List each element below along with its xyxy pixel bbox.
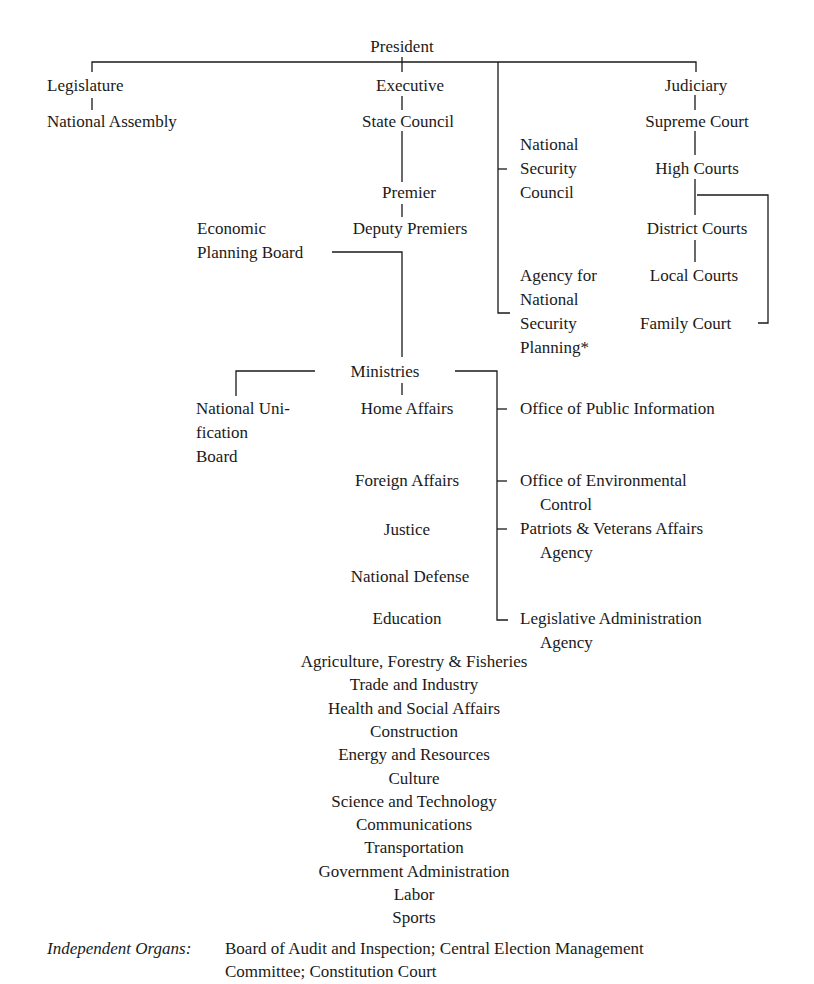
epb-label-line2: Planning Board	[197, 241, 303, 265]
ansp-line: Planning*	[520, 336, 589, 360]
epb-label-line1: Economic	[197, 217, 266, 241]
nsc-line: National	[520, 133, 579, 157]
office-item-line1: Office of Public Information	[520, 397, 715, 421]
top-branch-bar	[92, 62, 696, 72]
district-courts-label: District Courts	[647, 217, 748, 241]
office-item-line2: Control	[540, 493, 592, 517]
security-bracket	[498, 62, 510, 313]
executive-label: Executive	[376, 74, 444, 98]
ministry-item: Education	[373, 607, 442, 631]
deputy-premiers-label: Deputy Premiers	[353, 217, 468, 241]
independent-organs-line2: Committee; Constitution Court	[225, 960, 437, 984]
ministry-item: Sports	[392, 906, 435, 930]
family-court-label: Family Court	[640, 312, 731, 336]
office-item-line1: Office of Environmental	[520, 469, 687, 493]
ministry-item: Justice	[384, 518, 430, 542]
nub-line: Board	[196, 445, 238, 469]
judiciary-label: Judiciary	[665, 74, 727, 98]
ministry-item: Science and Technology	[331, 790, 497, 814]
local-courts-label: Local Courts	[650, 264, 738, 288]
independent-organs-line1: Board of Audit and Inspection; Central E…	[225, 937, 644, 961]
ansp-line: Agency for	[520, 264, 597, 288]
nub-line: National Uni-	[196, 397, 290, 421]
premier-label: Premier	[382, 181, 436, 205]
ministries-left-bracket	[236, 371, 315, 396]
ministry-item: Health and Social Affairs	[328, 697, 500, 721]
ansp-line: National	[520, 288, 579, 312]
ministry-item: Culture	[389, 767, 440, 791]
ministry-item: Agriculture, Forestry & Fisheries	[301, 650, 528, 674]
ministry-item: Government Administration	[318, 860, 509, 884]
national-assembly-label: National Assembly	[47, 110, 177, 134]
ministry-item: Transportation	[364, 836, 464, 860]
state-council-label: State Council	[362, 110, 454, 134]
office-item-line1: Patriots & Veterans Affairs	[520, 517, 703, 541]
family-court-bracket	[697, 195, 768, 323]
epb-to-ministries	[332, 252, 402, 357]
ansp-line: Security	[520, 312, 577, 336]
ministry-item: Trade and Industry	[350, 673, 479, 697]
nsc-line: Council	[520, 181, 574, 205]
ministry-item: Labor	[394, 883, 435, 907]
ministry-item: Communications	[356, 813, 472, 837]
ministry-item: Home Affairs	[361, 397, 454, 421]
ministry-item: Energy and Resources	[338, 743, 490, 767]
independent-organs-label: Independent Organs:	[47, 937, 191, 961]
nub-line: fication	[196, 421, 248, 445]
ministry-item: Foreign Affairs	[355, 469, 459, 493]
nsc-line: Security	[520, 157, 577, 181]
ministry-item: Construction	[370, 720, 458, 744]
ministries-label: Ministries	[351, 360, 420, 384]
legislature-label: Legislature	[47, 74, 123, 98]
office-item-line2: Agency	[540, 541, 593, 565]
supreme-court-label: Supreme Court	[645, 110, 748, 134]
office-item-line1: Legislative Administration	[520, 607, 702, 631]
president-label: President	[370, 35, 433, 59]
ministry-item: National Defense	[351, 565, 469, 589]
office-item-line2: Agency	[540, 631, 593, 655]
high-courts-label: High Courts	[655, 157, 739, 181]
